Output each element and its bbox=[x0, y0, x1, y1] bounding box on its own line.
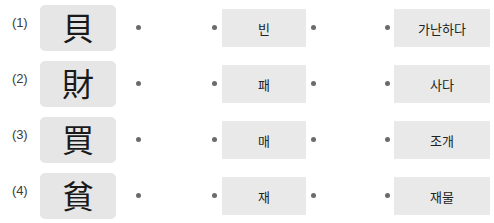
match-row: (4) 貧 재 재물 bbox=[0, 168, 494, 223]
hanja-character: 貧 bbox=[62, 180, 94, 214]
reading-label: 매 bbox=[258, 131, 270, 150]
reading-label: 재 bbox=[258, 187, 270, 206]
connector-bullet-right[interactable] bbox=[385, 25, 390, 30]
meaning-label: 재물 bbox=[430, 187, 454, 206]
connector-bullet-middle-right[interactable] bbox=[311, 137, 316, 142]
row-number: (1) bbox=[12, 11, 40, 35]
meaning-label: 사다 bbox=[430, 75, 454, 94]
hanja-chip[interactable]: 貝 bbox=[40, 5, 116, 51]
hanja-chip[interactable]: 買 bbox=[40, 117, 116, 163]
connector-bullet-right[interactable] bbox=[385, 81, 390, 86]
reading-chip[interactable]: 재 bbox=[222, 177, 306, 215]
meaning-chip[interactable]: 재물 bbox=[394, 177, 490, 215]
matching-exercise-worksheet: (1) 貝 빈 가난하다 (2) 財 패 사다 (3) bbox=[0, 0, 494, 223]
reading-chip[interactable]: 패 bbox=[222, 65, 306, 103]
meaning-label: 조개 bbox=[430, 131, 454, 150]
hanja-chip[interactable]: 財 bbox=[40, 61, 116, 107]
connector-bullet-left[interactable] bbox=[136, 193, 141, 198]
row-number: (3) bbox=[12, 123, 40, 147]
row-number: (4) bbox=[12, 179, 40, 203]
connector-bullet-middle-left[interactable] bbox=[212, 25, 217, 30]
connector-bullet-right[interactable] bbox=[385, 137, 390, 142]
meaning-chip[interactable]: 조개 bbox=[394, 121, 490, 159]
hanja-character: 財 bbox=[62, 68, 94, 102]
meaning-chip[interactable]: 가난하다 bbox=[394, 9, 490, 47]
connector-bullet-middle-right[interactable] bbox=[311, 81, 316, 86]
connector-bullet-middle-left[interactable] bbox=[212, 137, 217, 142]
match-row: (1) 貝 빈 가난하다 bbox=[0, 0, 494, 56]
match-row: (2) 財 패 사다 bbox=[0, 56, 494, 112]
reading-chip[interactable]: 빈 bbox=[222, 9, 306, 47]
connector-bullet-left[interactable] bbox=[136, 137, 141, 142]
meaning-chip[interactable]: 사다 bbox=[394, 65, 490, 103]
reading-label: 패 bbox=[258, 75, 270, 94]
connector-bullet-middle-right[interactable] bbox=[311, 25, 316, 30]
connector-bullet-middle-left[interactable] bbox=[212, 193, 217, 198]
connector-bullet-left[interactable] bbox=[136, 25, 141, 30]
connector-bullet-middle-right[interactable] bbox=[311, 193, 316, 198]
row-number: (2) bbox=[12, 67, 40, 91]
connector-bullet-left[interactable] bbox=[136, 81, 141, 86]
hanja-character: 貝 bbox=[62, 12, 94, 46]
reading-chip[interactable]: 매 bbox=[222, 121, 306, 159]
meaning-label: 가난하다 bbox=[418, 19, 466, 38]
connector-bullet-right[interactable] bbox=[385, 193, 390, 198]
connector-bullet-middle-left[interactable] bbox=[212, 81, 217, 86]
reading-label: 빈 bbox=[258, 19, 270, 38]
match-row: (3) 買 매 조개 bbox=[0, 112, 494, 168]
hanja-chip[interactable]: 貧 bbox=[40, 173, 116, 219]
hanja-character: 買 bbox=[62, 124, 94, 158]
